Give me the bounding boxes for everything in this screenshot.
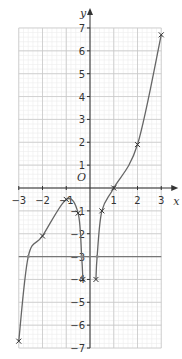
graph: xyO−3−2−11237654321−1−2−3−4−5−6−7 — [0, 0, 182, 359]
origin-label: O — [77, 171, 86, 184]
y-tick-label: −6 — [70, 320, 85, 331]
x-tick-label: 1 — [111, 195, 117, 206]
y-axis-label: y — [79, 7, 87, 20]
y-tick-label: 7 — [79, 23, 85, 34]
x-tick-label: 2 — [134, 195, 140, 206]
x-tick-label: 3 — [158, 195, 164, 206]
intersection-dot — [96, 255, 99, 258]
y-tick-label: −5 — [70, 297, 85, 308]
y-tick-label: 4 — [79, 92, 85, 103]
y-tick-label: 1 — [79, 160, 85, 171]
y-tick-label: −7 — [70, 343, 85, 354]
x-axis-arrow-icon — [171, 185, 178, 191]
y-tick-label: 3 — [79, 114, 85, 125]
y-tick-label: −2 — [70, 229, 85, 240]
y-tick-label: 5 — [79, 69, 85, 80]
y-axis-arrow-icon — [87, 8, 93, 15]
x-tick-label: −3 — [11, 195, 26, 206]
y-tick-label: 6 — [79, 46, 85, 57]
intersection-dot — [27, 255, 30, 258]
intersection-dot — [80, 255, 83, 258]
x-tick-label: −2 — [35, 195, 50, 206]
x-axis-label: x — [173, 195, 180, 208]
y-tick-label: 2 — [79, 137, 85, 148]
